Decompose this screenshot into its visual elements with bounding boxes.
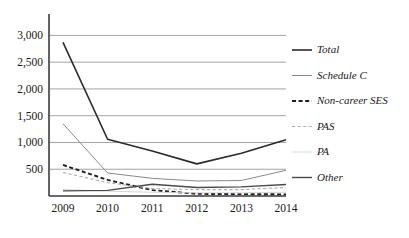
- y-tick-label: 500: [26, 163, 44, 175]
- legend-label-total: Total: [317, 43, 339, 55]
- legend-label-pa: PA: [316, 145, 329, 157]
- x-tick-label: 2011: [141, 202, 164, 214]
- y-tick-label: 1,500: [17, 110, 43, 123]
- y-tick-label: 3,000: [17, 29, 43, 42]
- series-line-schedule-c: [63, 124, 286, 181]
- x-tick-label: 2013: [230, 202, 253, 214]
- y-tick-label: 1,000: [17, 136, 43, 149]
- legend-label-other: Other: [317, 171, 343, 183]
- x-tick-label: 2010: [96, 202, 119, 214]
- series-line-total: [63, 42, 286, 164]
- y-tick-labels-group: 5001,0001,5002,0002,5003,000: [17, 29, 43, 175]
- series-line-pas: [63, 172, 286, 189]
- legend-label-schedule-c: Schedule C: [317, 69, 367, 81]
- x-tick-labels-group: 200920102011201220132014: [52, 202, 298, 214]
- y-tick-label: 2,000: [17, 83, 43, 96]
- line-chart: 5001,0001,5002,0002,5003,000 20092010201…: [0, 0, 409, 238]
- x-tick-label: 2009: [52, 202, 75, 214]
- x-tick-label: 2014: [275, 202, 298, 214]
- series-lines-group: [63, 42, 286, 194]
- gridlines-group: [49, 35, 286, 169]
- chart-legend: TotalSchedule CNon-career SESPASPAOther: [292, 43, 388, 183]
- legend-label-pas: PAS: [316, 120, 335, 132]
- y-tick-label: 2,500: [17, 56, 43, 69]
- series-line-other: [63, 184, 286, 191]
- legend-label-non-career-ses: Non-career SES: [316, 94, 388, 106]
- chart-canvas: 5001,0001,5002,0002,5003,000 20092010201…: [0, 0, 409, 238]
- x-tick-label: 2012: [185, 202, 208, 214]
